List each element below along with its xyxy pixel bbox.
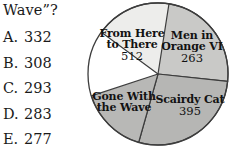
- question-stem: Wave”?: [3, 2, 58, 18]
- pie-slice: [158, 4, 228, 82]
- answer-choice-list: A. 332 B. 308 C. 293 D. 283 E. 277: [3, 29, 86, 157]
- choice-letter-a: A.: [3, 29, 19, 45]
- choice-letter-b: B.: [3, 55, 19, 71]
- answer-choice-c[interactable]: C. 293: [3, 80, 86, 106]
- choice-letter-d: D.: [3, 106, 19, 122]
- pie-chart: From Here to There 512 Men in Orange VI …: [87, 2, 229, 146]
- answer-choice-e[interactable]: E. 277: [3, 131, 86, 157]
- choice-letter-e: E.: [3, 131, 19, 147]
- choice-value-c: 293: [19, 80, 52, 96]
- choice-letter-c: C.: [3, 80, 19, 96]
- pie-chart-svg: [87, 2, 229, 146]
- choice-value-b: 308: [19, 55, 52, 71]
- answer-choice-d[interactable]: D. 283: [3, 106, 86, 132]
- answer-choice-b[interactable]: B. 308: [3, 55, 86, 81]
- choice-value-e: 277: [19, 131, 52, 147]
- choice-value-a: 332: [19, 29, 52, 45]
- answer-choice-a[interactable]: A. 332: [3, 29, 86, 55]
- choice-value-d: 283: [19, 106, 52, 122]
- question-panel: Wave”? A. 332 B. 308 C. 293 D. 283 E. 27…: [0, 0, 86, 158]
